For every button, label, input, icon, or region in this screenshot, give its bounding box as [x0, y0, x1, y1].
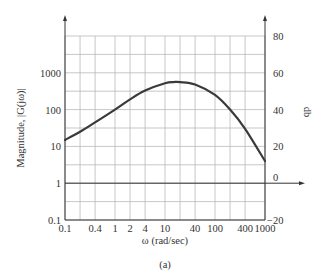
y-tick-label: 1: [56, 178, 61, 189]
x-tick-label: 2: [127, 223, 132, 234]
y2-tick-label: −20: [267, 215, 283, 226]
y-tick-label: 0.1: [48, 215, 61, 226]
x-tick-label: 1: [112, 223, 117, 234]
y-tick-label: 10: [51, 141, 62, 152]
y2-tick-label: 80: [273, 31, 284, 42]
x-tick-label: 100: [207, 223, 223, 234]
y2-tick-label: 20: [273, 141, 284, 152]
x-tick-label: 0.4: [89, 223, 103, 234]
bode-magnitude-chart: 0.10.4124104010040010000.11101001000−200…: [0, 0, 321, 273]
y-tick-label: 1000: [40, 68, 61, 79]
arrow-up-icon: [63, 15, 67, 21]
y2-tick-label: 40: [273, 105, 284, 116]
y2-tick-label: 0: [273, 172, 278, 183]
x-tick-label: 400: [237, 223, 253, 234]
y2-tick-label: 60: [273, 68, 284, 79]
axes: [63, 15, 305, 220]
y-tick-label: 100: [45, 105, 61, 116]
x-axis-label: ω (rad/sec): [142, 235, 189, 247]
x-tick-label: 4: [142, 223, 148, 234]
figure-caption: (a): [159, 259, 171, 271]
grid-lines: [65, 36, 265, 220]
arrow-up-icon: [263, 15, 267, 21]
y-axis-label: Magnitude, |G(jω)|: [15, 88, 27, 167]
y2-axis-label: db: [302, 107, 313, 118]
x-tick-label: 40: [190, 223, 201, 234]
arrow-right-icon: [299, 181, 305, 185]
x-tick-label: 10: [160, 223, 171, 234]
